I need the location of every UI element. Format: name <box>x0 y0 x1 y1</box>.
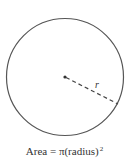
radius-line <box>66 78 118 105</box>
circle-diagram: r <box>0 0 129 159</box>
formula-text: Area = π(radius) <box>26 145 99 157</box>
area-formula-caption: Area = π(radius)2 <box>0 143 129 157</box>
formula-exponent: 2 <box>100 145 104 153</box>
radius-label: r <box>95 79 99 90</box>
